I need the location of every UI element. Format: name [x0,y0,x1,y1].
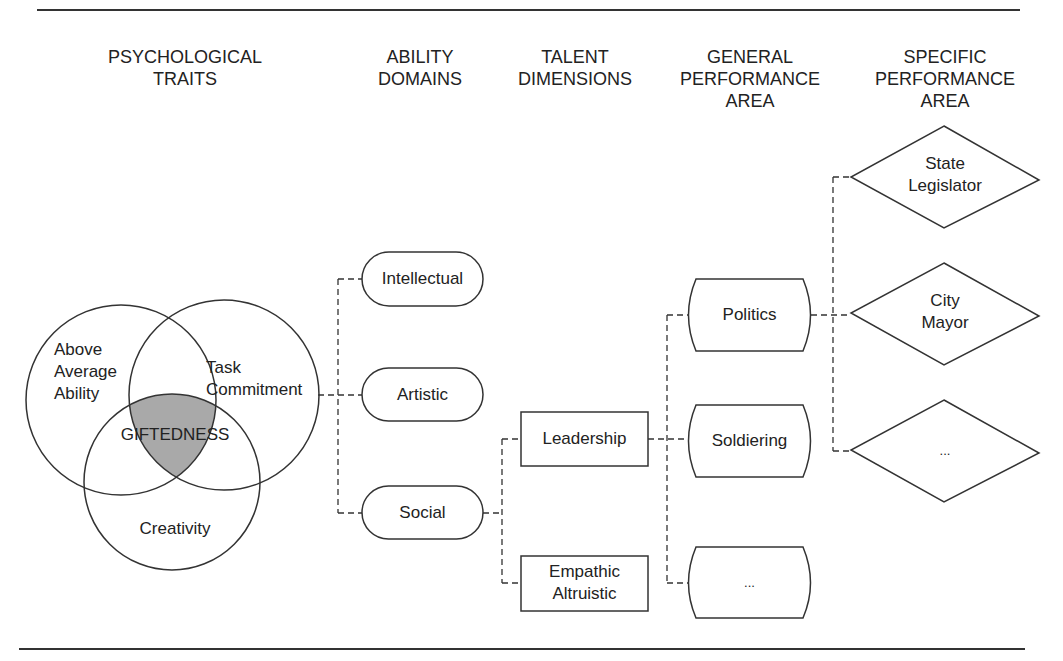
talent-label-empathic-altruistic: Empathic Altruistic [521,561,648,605]
venn-label-creativity: Creativity [120,518,230,540]
specific-label-more: ... [880,440,1010,462]
venn-label-above-average-ability: Above Average Ability [54,339,117,405]
giftedness-intersection [84,394,260,570]
ability-label-artistic: Artistic [362,384,483,406]
general-label-soldiering: Soldiering [688,430,811,452]
ability-label-social: Social [362,502,483,524]
general-label-politics: Politics [688,304,811,326]
talent-label-leadership: Leadership [521,428,648,450]
venn-label-task-commitment: Task Commitment [206,357,302,401]
specific-label-city-mayor: City Mayor [880,290,1010,334]
specific-label-state-legislator: State Legislator [880,153,1010,197]
general-label-more: ... [688,572,811,594]
venn-label-giftedness: GIFTEDNESS [105,424,245,446]
ability-label-intellectual: Intellectual [362,268,483,290]
